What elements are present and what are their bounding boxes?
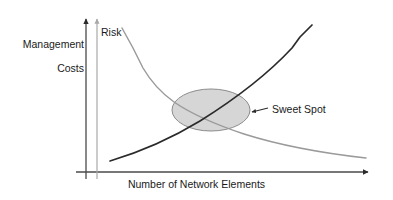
sweet-spot-annotation-label: Sweet Spot xyxy=(272,103,326,115)
diagram-canvas: Management Costs Risk Number of Network … xyxy=(0,0,393,200)
sweet-spot-leader-line xyxy=(252,108,268,112)
y-axis-label-line1: Management xyxy=(23,38,84,50)
y-axis-label-line2: Costs xyxy=(0,62,84,74)
x-axis-label: Number of Network Elements xyxy=(0,178,393,190)
y-axis-label-management-costs: Management Costs xyxy=(0,26,84,98)
y-axis-label-risk: Risk xyxy=(101,26,121,38)
risk-curve xyxy=(122,28,366,158)
